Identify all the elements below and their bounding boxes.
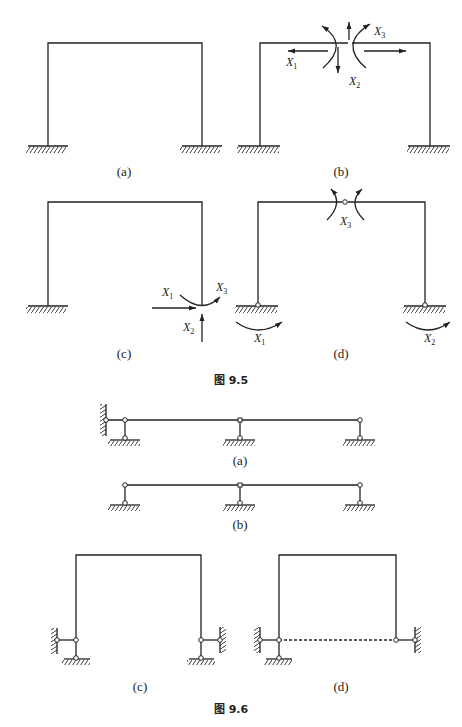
force-label-x1: X1 bbox=[254, 331, 265, 347]
force-label-x3: X3 bbox=[216, 280, 227, 296]
panel-label-9-6-b: (b) bbox=[232, 517, 247, 533]
frame-9-5-b bbox=[238, 22, 450, 146]
force-label-x2: X2 bbox=[183, 320, 194, 336]
frame-9-6-d bbox=[260, 555, 415, 659]
figure-caption-9-5: 图 9.5 bbox=[214, 371, 248, 387]
figure-caption-9-6: 图 9.6 bbox=[214, 700, 248, 716]
force-label-x2: X2 bbox=[349, 74, 360, 90]
fixed-support-hatch bbox=[403, 307, 445, 313]
panel-label-9-5-d: (d) bbox=[333, 346, 348, 362]
panel-label-9-5-c: (c) bbox=[117, 346, 131, 362]
fixed-support-hatch bbox=[26, 307, 66, 313]
panel-label-9-5-a: (a) bbox=[117, 164, 131, 180]
panel-label-9-6-a: (a) bbox=[233, 453, 247, 469]
frame-9-6-c bbox=[57, 555, 220, 659]
force-label-x1: X1 bbox=[162, 285, 173, 301]
panel-label-9-6-d: (d) bbox=[333, 679, 348, 695]
fixed-support-hatch bbox=[407, 147, 449, 153]
fixed-support-hatch bbox=[235, 307, 277, 313]
panel-label-9-6-c: (c) bbox=[133, 679, 147, 695]
fixed-support-hatch bbox=[237, 147, 279, 153]
frame-9-5-a bbox=[28, 43, 222, 146]
panel-label-9-5-b: (b) bbox=[333, 164, 348, 180]
hinges bbox=[55, 200, 428, 661]
force-label-x3: X3 bbox=[340, 214, 351, 230]
diagram-canvas bbox=[0, 0, 462, 727]
force-label-x1: X1 bbox=[286, 55, 297, 71]
force-label-x3: X3 bbox=[374, 24, 385, 40]
fixed-support-hatch bbox=[26, 147, 66, 153]
fixed-support-hatch bbox=[180, 147, 220, 153]
force-label-x2: X2 bbox=[424, 331, 435, 347]
